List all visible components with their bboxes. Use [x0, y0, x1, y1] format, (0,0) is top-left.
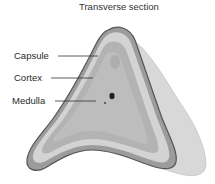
central-vein: [109, 93, 114, 99]
label-cortex: Cortex: [14, 72, 42, 83]
small-vessel: [104, 102, 106, 104]
transverse-section-illustration: [0, 0, 215, 184]
label-medulla: Medulla: [12, 95, 45, 106]
label-capsule: Capsule: [14, 50, 49, 61]
